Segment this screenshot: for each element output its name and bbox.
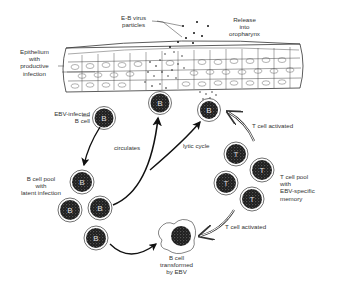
label-circulates: circulates — [114, 144, 140, 151]
svg-text:T: T — [224, 179, 229, 188]
label-t-cell-activated-top: T cell activated — [252, 122, 293, 129]
arrow-to-latent-pool — [84, 127, 100, 165]
label-release: Release into oropharynx — [229, 16, 260, 38]
virus-particles — [169, 21, 209, 48]
label-lytic-cycle: lytic cycle — [183, 142, 209, 149]
svg-text:T: T — [234, 150, 239, 159]
svg-text:B: B — [93, 234, 98, 243]
svg-text:B: B — [101, 114, 106, 123]
cell-ebv-infected: B — [93, 107, 116, 130]
svg-text:T: T — [250, 195, 255, 204]
t-cell-pool: T T T T — [214, 142, 274, 211]
cell-lytic-left: B — [149, 92, 172, 115]
label-b-cell-pool: B cell pool with latent infection — [21, 175, 61, 197]
svg-text:T: T — [260, 166, 265, 175]
label-epithelium: Epithelium with productive infection — [20, 48, 49, 77]
b-cell-pool: B B B B — [58, 170, 112, 250]
epithelium-layer — [63, 41, 303, 92]
ebv-cycle-diagram: B B B B B B B T T T T — [0, 0, 339, 282]
label-t-cell-activated-bottom: T cell activated — [225, 223, 266, 230]
arrow-t-cell-activated-top — [228, 112, 254, 141]
svg-text:B: B — [206, 106, 211, 115]
label-t-cell-pool: T cell pool with EBV-specific memory — [280, 173, 315, 202]
b-cell-transformed — [158, 219, 195, 253]
svg-text:B: B — [67, 206, 72, 215]
svg-text:B: B — [97, 204, 102, 213]
cell-lytic-release: B — [198, 99, 221, 122]
arrow-to-transformed — [110, 244, 156, 254]
svg-text:B: B — [79, 178, 84, 187]
arrow-circulates — [113, 118, 158, 205]
label-ebv-b-cell: EBV-infected B cell — [40, 110, 90, 124]
label-b-cell-transformed: B cell transformed by EBV — [160, 254, 193, 276]
svg-text:B: B — [157, 99, 162, 108]
virus-pointer-line — [152, 21, 182, 37]
label-virus-particles: E-B virus particles — [121, 14, 146, 28]
